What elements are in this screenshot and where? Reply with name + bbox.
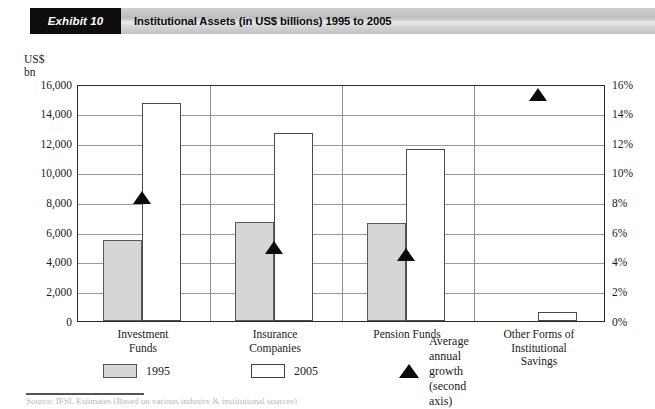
left-axis-tick-label: 0 [18,317,72,328]
category-label-line: Companies [209,342,341,356]
triangle-marker-icon [399,364,419,378]
left-axis-tick-label: 8,000 [18,198,72,209]
source-note: Source: IFSL Estimates (Based on various… [26,396,297,404]
category-label-line: Other Forms of [473,328,605,342]
left-axis-tick-label: 16,000 [18,80,72,91]
right-axis-tick-label: 14% [612,109,652,120]
bar-2005 [142,103,181,321]
bar-1995 [367,223,406,321]
category-label-line: Insurance [209,328,341,342]
growth-marker [529,88,547,101]
exhibit-header-band: Exhibit 10 Institutional Assets (in US$ … [30,8,655,34]
exhibit-number-tag: Exhibit 10 [30,8,121,34]
right-axis-tick-label: 4% [612,257,652,268]
square-swatch-white-icon [251,364,285,378]
left-axis-tick-label: 12,000 [18,139,72,150]
gridline [78,86,604,87]
legend-label: 2005 [294,364,318,379]
y-axis-unit-caption: US$ bn [24,53,44,78]
category-label-line: Investment [77,328,209,342]
right-axis-tick-label: 6% [612,228,652,239]
right-axis-tick-label: 16% [612,80,652,91]
category-label-line: Savings [473,355,605,369]
bar-1995 [103,240,142,321]
y-axis-unit-line-2: bn [24,66,44,79]
bar-2005 [274,133,313,321]
left-axis-tick-label: 6,000 [18,228,72,239]
left-axis-tick-label: 2,000 [18,287,72,298]
category-separator [474,86,475,321]
growth-marker [397,248,415,261]
footer-divider [26,393,144,395]
bar-2005 [538,312,577,321]
left-axis-tick-label: 10,000 [18,168,72,179]
right-axis-tick-label: 10% [612,168,652,179]
category-label-line: Funds [77,342,209,356]
bar-2005 [406,149,445,321]
left-axis-tick-label: 4,000 [18,257,72,268]
category-label: InsuranceCompanies [209,328,341,355]
right-axis-tick-label: 12% [612,139,652,150]
right-axis-tick-label: 2% [612,287,652,298]
category-separator [210,86,211,321]
category-label: Other Forms ofInstitutionalSavings [473,328,605,369]
legend-entry: 1995 [103,362,170,380]
left-axis-tick-label: 14,000 [18,109,72,120]
growth-marker [133,191,151,204]
right-axis-tick-label: 0% [612,317,652,328]
chart-plot-area [77,85,605,322]
legend-label: Average annual growth (second axis) [429,334,469,409]
category-separator [342,86,343,321]
legend-entry: 2005 [251,362,318,380]
y-axis-unit-line-1: US$ [24,53,44,66]
legend-entry: Average annual growth (second axis) [399,362,469,380]
square-swatch-grey-icon [103,364,137,378]
growth-marker [265,241,283,254]
bar-1995 [235,222,274,321]
right-axis-tick-label: 8% [612,198,652,209]
page-title: Institutional Assets (in US$ billions) 1… [134,8,392,34]
legend-label: 1995 [146,364,170,379]
category-label: InvestmentFunds [77,328,209,355]
category-label-line: Institutional [473,342,605,356]
